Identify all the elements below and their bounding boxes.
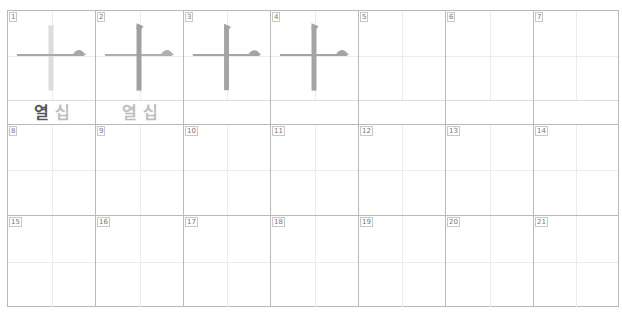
practice-area [184,11,270,101]
practice-area [184,125,270,215]
practice-cell-2[interactable]: 2 열십 [96,11,184,124]
grid-row-1: 1 열십 2 열십 [8,11,618,125]
guide-line-horizontal [184,262,270,263]
practice-area [359,216,445,307]
meaning-text: 열 [34,103,49,122]
guide-line-horizontal [271,170,358,171]
practice-cell-6[interactable]: 6 [446,11,534,124]
cell-number: 17 [185,217,198,227]
hanja-stroke-order-icon [271,11,358,100]
practice-cell-3[interactable]: 3 [184,11,271,124]
guide-line-horizontal [446,262,533,263]
practice-cell-1[interactable]: 1 열십 [8,11,96,124]
hanja-stroke-order-icon [96,11,183,100]
practice-area [534,216,618,307]
reading-label: 열십 [8,100,95,125]
practice-cell-16[interactable]: 16 [96,216,184,307]
practice-area [96,11,183,101]
guide-line-horizontal [96,170,183,171]
guide-line-horizontal [8,170,95,171]
grid-row-2: 8 9 10 11 12 13 14 [8,125,618,216]
cell-number: 3 [185,12,193,22]
cell-number: 20 [447,217,460,227]
guide-line-horizontal [534,262,618,263]
cell-number: 21 [535,217,548,227]
practice-area [534,11,618,101]
cell-number: 4 [272,12,280,22]
practice-area [446,216,533,307]
practice-cell-13[interactable]: 13 [446,125,534,215]
practice-cell-14[interactable]: 14 [534,125,618,215]
practice-cell-19[interactable]: 19 [359,216,446,307]
practice-area [271,125,358,215]
practice-cell-4[interactable]: 4 [271,11,359,124]
practice-area [8,125,95,215]
cell-number: 10 [185,126,198,136]
practice-cell-9[interactable]: 9 [96,125,184,215]
guide-line-horizontal [184,170,270,171]
guide-line-horizontal [359,262,445,263]
cell-number: 8 [9,126,17,136]
guide-line-horizontal [359,170,445,171]
cell-number: 6 [447,12,455,22]
guide-line-horizontal [8,262,95,263]
guide-line-horizontal [446,56,533,57]
practice-area [96,216,183,307]
cell-number: 12 [360,126,373,136]
meaning-text: 열 [122,103,137,122]
practice-area [446,11,533,101]
practice-cell-11[interactable]: 11 [271,125,359,215]
cell-number: 2 [97,12,105,22]
guide-line-horizontal [534,170,618,171]
practice-area [8,216,95,307]
guide-line-horizontal [446,170,533,171]
guide-line-horizontal [271,262,358,263]
practice-cell-21[interactable]: 21 [534,216,618,307]
practice-area [359,125,445,215]
cell-number: 9 [97,126,105,136]
practice-cell-15[interactable]: 15 [8,216,96,307]
practice-area [271,11,358,101]
cell-number: 1 [9,12,17,22]
hanja-stroke-order-icon [8,11,95,100]
practice-cell-10[interactable]: 10 [184,125,271,215]
cell-number: 18 [272,217,285,227]
cell-number: 13 [447,126,460,136]
practice-cell-5[interactable]: 5 [359,11,446,124]
practice-area [8,11,95,101]
sound-text: 십 [55,103,70,122]
cell-number: 7 [535,12,543,22]
reading-label: 열십 [96,100,183,125]
practice-area [184,216,270,307]
practice-cell-17[interactable]: 17 [184,216,271,307]
grid-row-3: 15 16 17 18 19 20 21 [8,216,618,307]
practice-grid: 1 열십 2 열십 [7,10,619,307]
practice-area [96,125,183,215]
practice-cell-12[interactable]: 12 [359,125,446,215]
practice-cell-20[interactable]: 20 [446,216,534,307]
practice-area [359,11,445,101]
guide-line-horizontal [359,56,445,57]
cell-number: 11 [272,126,285,136]
practice-cell-7[interactable]: 7 [534,11,618,124]
practice-area [271,216,358,307]
practice-area [534,125,618,215]
hanja-stroke-order-icon [184,11,270,100]
practice-cell-18[interactable]: 18 [271,216,359,307]
cell-number: 14 [535,126,548,136]
practice-cell-8[interactable]: 8 [8,125,96,215]
guide-line-horizontal [96,262,183,263]
cell-number: 15 [9,217,22,227]
cell-number: 16 [97,217,110,227]
guide-line-horizontal [534,56,618,57]
practice-area [446,125,533,215]
sound-text: 십 [143,103,158,122]
cell-number: 19 [360,217,373,227]
cell-number: 5 [360,12,368,22]
